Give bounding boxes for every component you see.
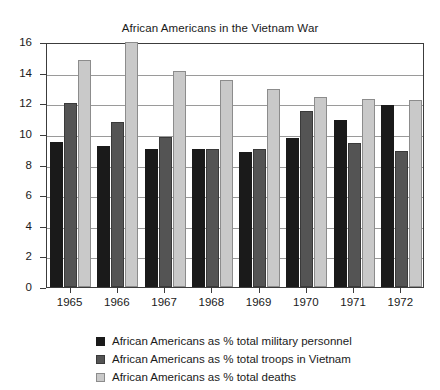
y-tick-mark xyxy=(40,227,46,228)
y-tick-label: 14 xyxy=(4,68,32,80)
bar xyxy=(145,149,158,287)
legend-label: African Americans as % total troops in V… xyxy=(112,353,351,365)
bar xyxy=(97,146,110,287)
y-tick-mark xyxy=(40,135,46,136)
bar xyxy=(362,99,375,287)
bar xyxy=(314,97,327,287)
bar xyxy=(300,111,313,287)
y-tick-label: 10 xyxy=(4,129,32,141)
chart-title: African Americans in the Vietnam War xyxy=(0,22,440,34)
bar xyxy=(64,103,77,287)
y-tick-label: 0 xyxy=(4,282,32,294)
x-tick-mark xyxy=(400,288,401,293)
bar xyxy=(334,120,347,287)
bar xyxy=(50,142,63,287)
bar xyxy=(159,137,172,287)
legend-swatch-icon xyxy=(96,337,105,346)
bar xyxy=(78,60,91,287)
bar xyxy=(409,100,422,287)
legend-swatch-icon xyxy=(96,355,105,364)
y-tick-label: 12 xyxy=(4,99,32,111)
y-tick-mark xyxy=(40,288,46,289)
y-tick-mark xyxy=(40,257,46,258)
x-tick-label: 1972 xyxy=(370,296,430,308)
y-tick-mark xyxy=(40,104,46,105)
y-tick-mark xyxy=(40,74,46,75)
plot-area xyxy=(46,43,424,288)
chart-figure: African Americans in the Vietnam War Afr… xyxy=(0,0,440,390)
bar xyxy=(125,42,138,287)
y-tick-mark xyxy=(40,196,46,197)
legend-swatch-icon xyxy=(96,373,105,382)
bar xyxy=(239,152,252,287)
x-tick-mark xyxy=(164,288,165,293)
x-tick-mark xyxy=(70,288,71,293)
bar xyxy=(381,105,394,287)
chart-legend: African Americans as % total military pe… xyxy=(96,332,436,386)
bar xyxy=(173,71,186,287)
bar xyxy=(253,149,266,287)
bar xyxy=(267,89,280,287)
legend-label: African Americans as % total military pe… xyxy=(112,335,352,347)
bar xyxy=(395,151,408,287)
y-tick-label: 16 xyxy=(4,37,32,49)
legend-label: African Americans as % total deaths xyxy=(112,371,296,383)
legend-item: African Americans as % total troops in V… xyxy=(96,350,436,368)
legend-item: African Americans as % total military pe… xyxy=(96,332,436,350)
gridline xyxy=(47,75,423,76)
bar xyxy=(286,138,299,287)
bar xyxy=(220,80,233,287)
x-tick-mark xyxy=(306,288,307,293)
y-tick-label: 2 xyxy=(4,252,32,264)
x-tick-mark xyxy=(117,288,118,293)
y-tick-label: 6 xyxy=(4,190,32,202)
y-tick-label: 8 xyxy=(4,160,32,172)
x-tick-mark xyxy=(259,288,260,293)
bar xyxy=(348,143,361,287)
x-tick-mark xyxy=(211,288,212,293)
legend-item: African Americans as % total deaths xyxy=(96,368,436,386)
y-tick-mark xyxy=(40,43,46,44)
y-tick-label: 4 xyxy=(4,221,32,233)
y-tick-mark xyxy=(40,166,46,167)
x-tick-mark xyxy=(353,288,354,293)
bar xyxy=(192,149,205,287)
bar xyxy=(111,122,124,287)
bar xyxy=(206,149,219,287)
